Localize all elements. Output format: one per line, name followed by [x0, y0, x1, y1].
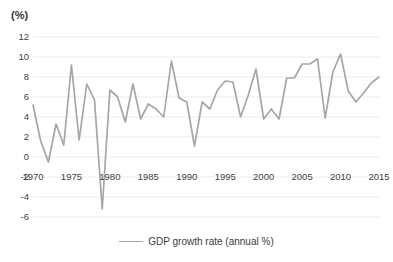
y-axis-tick-label: 8: [7, 72, 29, 82]
x-axis-tick-label: 2000: [247, 172, 281, 182]
legend-line-swatch: [119, 241, 143, 242]
x-axis-tick-label: 2015: [362, 172, 393, 182]
y-axis-tick-label: 2: [7, 132, 29, 142]
chart-legend: GDP growth rate (annual %): [0, 236, 393, 247]
x-axis-tick-label: 1985: [131, 172, 165, 182]
x-axis-tick-label: 1980: [93, 172, 127, 182]
x-axis-tick-label: 1975: [54, 172, 88, 182]
x-axis-tick-label: 1995: [208, 172, 242, 182]
x-axis-tick-label: 2010: [324, 172, 358, 182]
y-axis-tick-label: 10: [7, 52, 29, 62]
x-axis-tick-label: 1970: [16, 172, 50, 182]
y-axis-tick-label: 0: [7, 152, 29, 162]
y-axis-tick-label: 4: [7, 112, 29, 122]
y-axis-tick-label: 6: [7, 92, 29, 102]
x-axis-tick-label: 1990: [170, 172, 204, 182]
y-axis-tick-label: -6: [7, 212, 29, 222]
x-axis-tick-label: 2005: [285, 172, 319, 182]
gdp-growth-chart: (%) 121086420-2-4-6 19701975198019851990…: [0, 0, 393, 262]
legend-entry-label: GDP growth rate (annual %): [148, 236, 273, 247]
gridlines: [33, 37, 379, 217]
chart-plot-area: [0, 0, 393, 262]
y-axis-tick-label: 12: [7, 32, 29, 42]
y-axis-tick-label: -4: [7, 192, 29, 202]
